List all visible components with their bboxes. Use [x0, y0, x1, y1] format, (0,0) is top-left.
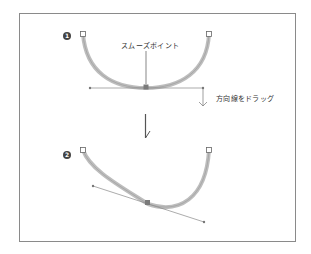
- bezier-illustration: [0, 0, 311, 254]
- handle-right-2: [203, 221, 205, 223]
- step-2-curve-group: [81, 148, 212, 224]
- handle-left-2: [92, 185, 94, 187]
- smooth-anchor-2: [145, 200, 150, 205]
- endpoint-left-1: [81, 32, 86, 37]
- drag-direction-label: 方向線をドラッグ: [216, 93, 274, 103]
- handle-left-1: [89, 87, 91, 89]
- endpoint-right-2: [207, 148, 212, 153]
- endpoint-left-2: [81, 148, 86, 153]
- smooth-anchor-1: [144, 85, 149, 90]
- smooth-point-label: スムーズポイント: [121, 40, 179, 50]
- step-badge-2: 2: [63, 151, 71, 159]
- transition-arrow: [146, 114, 151, 138]
- endpoint-right-1: [207, 32, 212, 37]
- step-badge-1: 1: [63, 32, 71, 40]
